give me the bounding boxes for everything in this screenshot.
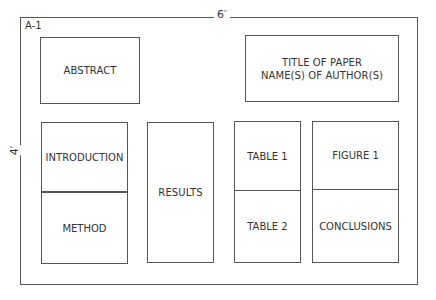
title-label: TITLE OF PAPER bbox=[282, 56, 362, 69]
width-dimension-label: 6′ bbox=[214, 8, 230, 21]
table1-label: TABLE 1 bbox=[247, 151, 287, 162]
tables-column: TABLE 1 TABLE 2 bbox=[234, 121, 301, 263]
panel-id-label: A-1 bbox=[25, 20, 42, 31]
conclusions-label: CONCLUSIONS bbox=[319, 221, 392, 232]
results-section: RESULTS bbox=[147, 122, 214, 263]
method-section: METHOD bbox=[42, 193, 127, 263]
figure-conclusions-column: FIGURE 1 CONCLUSIONS bbox=[312, 121, 399, 263]
results-label: RESULTS bbox=[158, 186, 202, 199]
intro-method-column: INTRODUCTION METHOD bbox=[41, 122, 128, 264]
title-section: TITLE OF PAPER NAME(S) OF AUTHOR(S) bbox=[245, 35, 399, 102]
table1-section: TABLE 1 bbox=[235, 122, 300, 190]
method-label: METHOD bbox=[62, 223, 106, 234]
abstract-section: ABSTRACT bbox=[40, 37, 140, 104]
table2-label: TABLE 2 bbox=[247, 221, 287, 232]
figure1-label: FIGURE 1 bbox=[332, 150, 379, 161]
height-dimension-label: 4′ bbox=[6, 146, 23, 156]
authors-label: NAME(S) OF AUTHOR(S) bbox=[261, 69, 383, 82]
introduction-label: INTRODUCTION bbox=[46, 152, 124, 163]
conclusions-section: CONCLUSIONS bbox=[313, 190, 398, 262]
abstract-label: ABSTRACT bbox=[63, 64, 116, 77]
table2-section: TABLE 2 bbox=[235, 191, 300, 262]
figure1-section: FIGURE 1 bbox=[313, 122, 398, 189]
introduction-section: INTRODUCTION bbox=[42, 123, 127, 192]
